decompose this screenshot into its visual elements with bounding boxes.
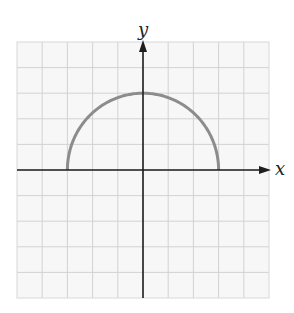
y-axis-label: y [137,19,149,40]
x-axis-label: x [275,158,285,179]
coordinate-plot: x y [0,0,294,313]
